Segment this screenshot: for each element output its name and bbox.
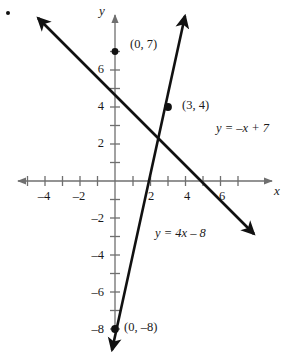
point-label-0-7: (0, 7)	[130, 38, 157, 51]
point-3-4	[164, 103, 172, 111]
y-tick-label--6: –6	[83, 286, 104, 299]
y-axis-label: y	[99, 4, 105, 17]
axis-lines	[18, 15, 272, 332]
x-tick-label-6: 6	[215, 190, 229, 203]
x-tick-label--4: –4	[33, 190, 55, 203]
y-tick-label-6: 6	[90, 63, 104, 76]
graph-figure: –4 –2 2 4 6 6 4 2 –2 –4 –6 –8 y x (0, 7)…	[0, 0, 290, 358]
x-tick-label-4: 4	[180, 190, 194, 203]
y-tick-label--4: –4	[83, 249, 104, 262]
point-label-0-neg8: (0, –8)	[124, 321, 157, 334]
equation-label-line-1: y = –x + 7	[216, 122, 269, 135]
y-tick-label-4: 4	[90, 100, 104, 113]
x-axis-label: x	[274, 184, 280, 197]
line-y-equals-4x-minus-8	[112, 16, 185, 350]
point-label-3-4: (3, 4)	[182, 99, 209, 112]
x-tick-label-2: 2	[144, 190, 158, 203]
y-tick-label--8: –8	[83, 323, 104, 336]
y-tick-label-2: 2	[90, 137, 104, 150]
point-0-7	[112, 48, 119, 55]
point-0-neg8	[111, 325, 119, 333]
equation-label-line-2: y = 4x – 8	[155, 227, 206, 240]
y-tick-label--2: –2	[83, 212, 104, 225]
coordinate-plane	[0, 0, 290, 358]
x-tick-label--2: –2	[68, 190, 90, 203]
